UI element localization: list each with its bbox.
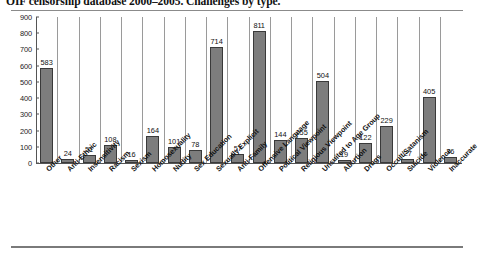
y-axis-tick-label: 700: [20, 45, 32, 54]
y-axis-tick-label: 800: [20, 29, 32, 38]
bar-value-label: 504: [309, 71, 337, 80]
bar-value-label: 405: [415, 87, 443, 96]
x-axis-category-labels: OtherAnti-EthnicInsensitivityRacismSexis…: [36, 164, 462, 254]
top-rule: [11, 10, 463, 11]
category-separator-gridline: [142, 17, 143, 163]
y-axis-tick-label: 600: [20, 61, 32, 70]
bottom-rule: [11, 246, 463, 248]
bar-value-label: 714: [203, 37, 231, 46]
chart-title: OIF censorship database 2000–2005. Chall…: [6, 0, 471, 8]
category-separator-gridline: [270, 17, 271, 163]
bar-value-label: 811: [245, 21, 273, 30]
bar: [40, 68, 53, 163]
bar-value-label: 583: [33, 58, 61, 67]
y-axis-tick-label: 400: [20, 94, 32, 103]
y-axis-tick-label: 200: [20, 126, 32, 135]
category-separator-gridline: [57, 17, 58, 163]
y-axis-tick-labels: 0100200300400500600700800900: [10, 17, 32, 163]
y-axis-tick-label: 500: [20, 77, 32, 86]
category-separator-gridline: [79, 17, 80, 163]
bar-value-label: 164: [139, 126, 167, 135]
y-axis-tick-label: 100: [20, 142, 32, 151]
y-axis-tick-label: 300: [20, 110, 32, 119]
y-axis-tick-label: 0: [28, 159, 32, 168]
y-axis-tick-label: 900: [20, 13, 32, 22]
category-separator-gridline: [397, 17, 398, 163]
